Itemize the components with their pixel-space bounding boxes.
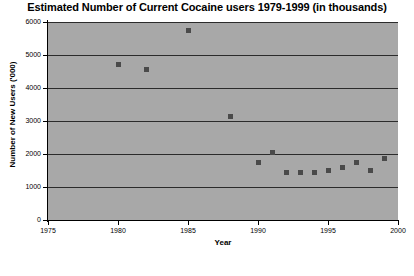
x-axis-tick-label: 2000	[383, 227, 413, 234]
data-point	[228, 114, 233, 119]
x-axis-tick	[258, 221, 259, 225]
data-point	[186, 28, 191, 33]
gridline	[48, 187, 398, 188]
x-axis-tick	[118, 221, 119, 225]
gridline	[48, 121, 398, 122]
data-point	[354, 160, 359, 165]
x-axis-tick-label: 1975	[33, 227, 63, 234]
y-axis-tick	[43, 187, 47, 188]
x-axis-tick	[188, 221, 189, 225]
y-axis-tick-label: 3000	[13, 117, 41, 124]
x-axis-tick	[398, 221, 399, 225]
y-axis-tick	[43, 121, 47, 122]
y-axis-tick-label: 1000	[13, 183, 41, 190]
y-axis-tick	[43, 55, 47, 56]
cocaine-users-scatter-chart: Estimated Number of Current Cocaine user…	[0, 0, 414, 276]
x-axis-title: Year	[48, 238, 398, 247]
y-axis-line	[47, 20, 48, 222]
gridline	[48, 88, 398, 89]
plot-area	[48, 22, 398, 220]
y-axis-tick-label: 6000	[13, 18, 41, 25]
x-axis-tick-label: 1985	[173, 227, 203, 234]
y-axis-tick-label: 5000	[13, 51, 41, 58]
x-axis-tick-label: 1995	[313, 227, 343, 234]
data-point	[312, 170, 317, 175]
y-axis-tick	[43, 88, 47, 89]
gridline	[48, 154, 398, 155]
y-axis-tick	[43, 220, 47, 221]
gridline	[48, 22, 398, 23]
chart-title: Estimated Number of Current Cocaine user…	[0, 1, 414, 13]
data-point	[256, 160, 261, 165]
data-point	[144, 67, 149, 72]
data-point	[284, 170, 289, 175]
x-axis-tick	[328, 221, 329, 225]
gridline	[48, 55, 398, 56]
x-axis-tick-label: 1980	[103, 227, 133, 234]
y-axis-tick-label: 4000	[13, 84, 41, 91]
y-axis-tick-label: 2000	[13, 150, 41, 157]
x-axis-tick	[48, 221, 49, 225]
data-point	[326, 168, 331, 173]
y-axis-tick-label: 0	[13, 216, 41, 223]
y-axis-tick	[43, 22, 47, 23]
y-axis-title: Number of New Users ('000)	[8, 40, 17, 190]
data-point	[382, 156, 387, 161]
x-axis-tick-label: 1990	[243, 227, 273, 234]
data-point	[368, 168, 373, 173]
data-point	[116, 62, 121, 67]
x-axis-line	[47, 220, 399, 221]
data-point	[270, 150, 275, 155]
y-axis-tick	[43, 154, 47, 155]
data-point	[298, 170, 303, 175]
data-point	[340, 165, 345, 170]
